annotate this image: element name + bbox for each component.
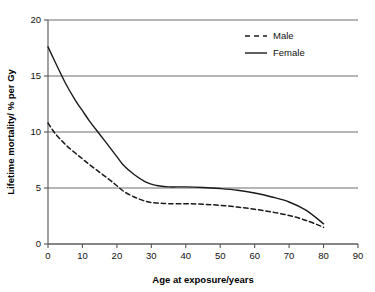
legend-label-female: Female xyxy=(273,47,305,58)
x-tick-label-70: 70 xyxy=(284,250,295,261)
x-axis-title: Age at exposure/years xyxy=(152,274,253,285)
x-tick-label-80: 80 xyxy=(318,250,329,261)
x-tick-label-60: 60 xyxy=(249,250,260,261)
lifetime-mortality-line-chart: 05101520 0102030405060708090 MaleFemale … xyxy=(0,0,375,292)
chart-container: 05101520 0102030405060708090 MaleFemale … xyxy=(0,0,375,292)
y-tick-label-15: 15 xyxy=(30,70,41,81)
x-tick-label-20: 20 xyxy=(112,250,123,261)
legend-label-male: Male xyxy=(273,30,294,41)
chart-background xyxy=(0,0,375,292)
y-tick-label-0: 0 xyxy=(36,238,41,249)
x-tick-label-30: 30 xyxy=(146,250,157,261)
x-tick-label-90: 90 xyxy=(353,250,364,261)
x-tick-label-10: 10 xyxy=(77,250,88,261)
y-tick-label-10: 10 xyxy=(30,126,41,137)
x-tick-label-50: 50 xyxy=(215,250,226,261)
x-tick-label-0: 0 xyxy=(45,250,50,261)
y-tick-label-20: 20 xyxy=(30,14,41,25)
x-tick-label-40: 40 xyxy=(180,250,191,261)
y-axis-title: Lifetime mortality/ % per Gy xyxy=(5,68,16,194)
y-tick-label-5: 5 xyxy=(36,182,41,193)
